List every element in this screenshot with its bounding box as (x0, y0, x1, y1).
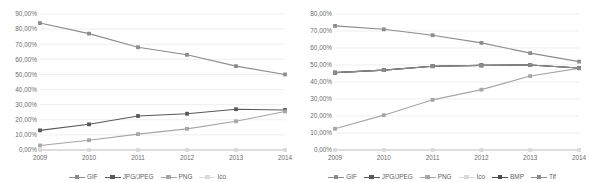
x-axis-tick-label: 2013 (523, 154, 538, 161)
legend-swatch-icon (161, 174, 177, 181)
y-axis-tick-label: 40,00% (15, 86, 37, 93)
data-point (528, 63, 532, 67)
data-point (38, 128, 42, 132)
y-axis-tick-label: 60,00% (310, 44, 332, 51)
legend-item-tif[interactable]: Tif (531, 173, 556, 181)
legend-item-gif[interactable]: GIF (328, 173, 357, 181)
x-axis-tick-label: 2010 (377, 154, 392, 161)
series-line-tif (335, 65, 579, 73)
data-point (382, 27, 386, 31)
data-point (283, 73, 287, 77)
data-point (185, 127, 189, 131)
legend-label: Tif (549, 173, 556, 181)
data-point (87, 32, 91, 36)
x-axis-tick-label: 2014 (572, 154, 587, 161)
data-point (234, 119, 238, 123)
series-line-png (335, 68, 579, 128)
legend-label: JPG/JPEG (382, 173, 413, 181)
legend-swatch-icon (69, 174, 85, 181)
legend-item-gif[interactable]: GIF (69, 173, 98, 181)
legend-swatch-icon (420, 174, 436, 181)
legend-item-jpg-jpeg[interactable]: JPG/JPEG (105, 173, 154, 181)
data-point (577, 66, 581, 70)
y-axis-tick-label: 20,00% (310, 112, 332, 119)
legend-label: GIF (87, 173, 98, 181)
data-point (382, 68, 386, 72)
x-axis-tick-label: 2009 (33, 154, 48, 161)
y-axis-tick-label: 0,00% (314, 146, 332, 153)
data-point (185, 148, 189, 152)
y-axis-tick-label: 80,00% (310, 10, 332, 17)
y-axis-tick-label: 40,00% (310, 78, 332, 85)
chart-right-legend: GIFJPG/JPEGPNGIcoBMPTif (295, 173, 589, 181)
data-point (38, 148, 42, 152)
data-point (38, 144, 42, 148)
data-point (431, 148, 435, 152)
x-axis-tick-label: 2013 (229, 154, 244, 161)
data-point (431, 33, 435, 37)
data-point (480, 148, 484, 152)
x-axis-tick-label: 2011 (131, 154, 145, 161)
legend-item-ico[interactable]: Ico (459, 173, 486, 181)
data-point (528, 74, 532, 78)
data-point (333, 71, 337, 75)
data-point (185, 53, 189, 57)
data-point (333, 127, 337, 131)
y-axis-tick-label: 0,00% (19, 146, 37, 153)
legend-swatch-icon (364, 174, 380, 181)
legend-swatch-icon (459, 174, 475, 181)
chart-left: 0,00%10,00%20,00%30,00%40,00%50,00%60,00… (0, 0, 295, 182)
legend-label: Ico (477, 173, 486, 181)
data-point (577, 148, 581, 152)
x-axis-tick-label: 2009 (328, 154, 343, 161)
data-point (87, 148, 91, 152)
legend-swatch-icon (328, 174, 344, 181)
data-point (431, 64, 435, 68)
data-point (480, 88, 484, 92)
data-point (528, 51, 532, 55)
series-line-gif (40, 23, 285, 74)
y-axis-tick-label: 20,00% (15, 116, 37, 123)
legend-label: JPG/JPEG (123, 173, 154, 181)
chart-page: 0,00%10,00%20,00%30,00%40,00%50,00%60,00… (0, 0, 589, 182)
chart-right: 0,00%10,00%20,00%30,00%40,00%50,00%60,00… (295, 0, 589, 182)
chart-right-plot: 0,00%10,00%20,00%30,00%40,00%50,00%60,00… (295, 0, 589, 182)
data-point (87, 138, 91, 142)
data-point (283, 110, 287, 114)
data-point (431, 98, 435, 102)
data-point (87, 122, 91, 126)
x-axis-tick-label: 2014 (278, 154, 293, 161)
legend-swatch-icon (199, 174, 215, 181)
chart-left-plot: 0,00%10,00%20,00%30,00%40,00%50,00%60,00… (0, 0, 295, 182)
chart-left-svg: 0,00%10,00%20,00%30,00%40,00%50,00%60,00… (0, 0, 295, 182)
data-point (136, 148, 140, 152)
legend-label: BMP (510, 173, 524, 181)
y-axis-tick-label: 30,00% (310, 95, 332, 102)
x-axis-tick-label: 2012 (474, 154, 489, 161)
data-point (382, 148, 386, 152)
data-point (333, 148, 337, 152)
data-point (234, 64, 238, 68)
data-point (234, 148, 238, 152)
data-point (480, 41, 484, 45)
chart-left-legend: GIFJPG/JPEGPNGIco (0, 173, 295, 181)
y-axis-tick-label: 50,00% (310, 61, 332, 68)
data-point (136, 114, 140, 118)
x-axis-tick-label: 2011 (426, 154, 440, 161)
y-axis-tick-label: 50,00% (15, 71, 37, 78)
data-point (38, 21, 42, 25)
y-axis-tick-label: 30,00% (15, 101, 37, 108)
series-line-png (40, 111, 285, 145)
data-point (480, 63, 484, 67)
legend-item-jpg-jpeg[interactable]: JPG/JPEG (364, 173, 413, 181)
x-axis-tick-label: 2012 (180, 154, 195, 161)
legend-label: PNG (179, 173, 193, 181)
legend-label: Ico (217, 173, 226, 181)
legend-item-bmp[interactable]: BMP (492, 173, 524, 181)
x-axis-tick-label: 2010 (82, 154, 97, 161)
y-axis-tick-label: 80,00% (15, 25, 37, 32)
legend-item-ico[interactable]: Ico (199, 173, 226, 181)
legend-item-png[interactable]: PNG (420, 173, 452, 181)
y-axis-tick-label: 10,00% (15, 131, 37, 138)
legend-item-png[interactable]: PNG (161, 173, 193, 181)
